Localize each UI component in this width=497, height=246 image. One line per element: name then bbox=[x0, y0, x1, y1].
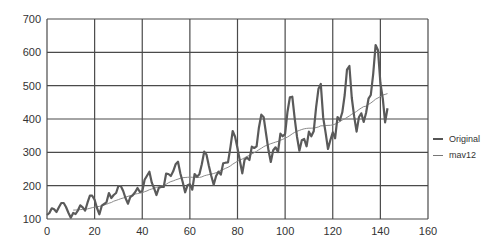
svg-text:20: 20 bbox=[89, 225, 101, 237]
svg-text:200: 200 bbox=[23, 180, 41, 192]
x-axis-ticks: 020406080100120140160 bbox=[44, 225, 437, 237]
svg-text:600: 600 bbox=[23, 46, 41, 58]
svg-text:500: 500 bbox=[23, 80, 41, 92]
svg-text:120: 120 bbox=[324, 225, 342, 237]
svg-text:140: 140 bbox=[371, 225, 389, 237]
svg-text:300: 300 bbox=[23, 146, 41, 158]
grid-lines bbox=[47, 19, 428, 219]
svg-text:400: 400 bbox=[23, 113, 41, 125]
line-chart: 100200300400500600700 020406080100120140… bbox=[0, 0, 497, 246]
original-swatch-icon bbox=[433, 138, 443, 140]
svg-text:100: 100 bbox=[23, 213, 41, 225]
svg-text:160: 160 bbox=[419, 225, 437, 237]
svg-text:80: 80 bbox=[231, 225, 243, 237]
svg-text:60: 60 bbox=[184, 225, 196, 237]
svg-text:700: 700 bbox=[23, 13, 41, 25]
original-line bbox=[47, 45, 388, 218]
legend-label-original: Original bbox=[449, 134, 480, 144]
svg-text:0: 0 bbox=[44, 225, 50, 237]
y-axis-ticks: 100200300400500600700 bbox=[23, 13, 41, 225]
mav12-swatch-icon bbox=[433, 155, 443, 156]
svg-text:40: 40 bbox=[136, 225, 148, 237]
legend: Original mav12 bbox=[433, 131, 480, 163]
legend-label-mav12: mav12 bbox=[449, 150, 476, 160]
legend-item-original: Original bbox=[433, 131, 480, 147]
svg-text:100: 100 bbox=[276, 225, 294, 237]
legend-item-mav12: mav12 bbox=[433, 147, 480, 163]
